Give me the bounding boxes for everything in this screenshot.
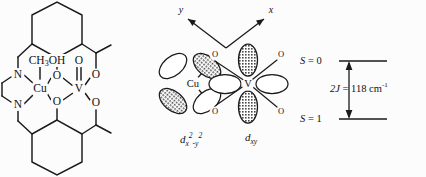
bond-upperring-to-ch [82,44,96,53]
energy-gap-label: 2J = 118 cm-1 [330,81,388,94]
orbital-caption-dx2y2: dx2-y2 [180,131,202,148]
cu-lobe-lower-left [155,83,192,118]
bond-ch-to-methyl-bottom [96,125,111,133]
v-lobe-bottom [239,91,258,123]
energy-label-triplet: S = 1 [300,113,322,124]
atom-label-nitrogen-bottom: N [14,98,23,110]
caption-sub-y: -y [193,139,199,148]
v-lobe-left [209,75,241,94]
orbital-label-oxygen-terminal-top: O [278,49,284,59]
bond-n-top-to-ch2a [2,77,11,83]
bond-ch-to-methyl-top [96,45,111,53]
axis-arrows: y x [178,4,274,48]
bond-lowerring-to-ch2 [18,121,32,134]
atom-label-oxygen-vanadyl: O [75,54,83,66]
gap-symbol: 2J [330,83,340,94]
axis-label-x: x [268,4,274,15]
axis-label-y: y [178,4,184,15]
orbital-panel: y x [155,0,297,177]
orbital-label-oxygen-bridge-bottom: O [212,106,218,116]
bond-lowerring-to-ch-lower [82,125,96,134]
v-lobe-right [256,75,288,94]
orbital-label-oxygen-bridge-top: O [212,49,218,59]
singlet-symbol: S [300,55,305,66]
cu-lobe-upper-left [155,48,192,83]
energy-label-singlet: S = 0 [300,55,322,66]
orbital-caption-dxy: dxy [245,131,257,146]
lower-cyclohexane-ring [32,120,82,175]
structure-svg: Cu V N N O O O O O CH3OH [0,0,158,177]
atom-label-oxygen-bridge-top: O [53,69,61,81]
gap-exponent: -1 [382,81,388,89]
gap-value: = 118 cm [343,83,382,94]
bond-obridge-bottom-to-v [63,93,73,100]
bond-obridge-top-to-v [63,78,73,86]
bond-v-to-o-topright [85,78,90,85]
chemistry-figure: Cu V N N O O O O O CH3OH [0,0,426,177]
orbital-label-oxygen-terminal-bottom: O [278,106,284,116]
bond-ch2b-to-n-bottom [2,96,11,102]
energy-gap-arrowhead-down [346,110,353,119]
orbital-label-vanadium: V [244,78,252,89]
triplet-value: = 1 [308,113,322,124]
methanol-prefix: CH [29,54,45,66]
methanol-suffix: OH [49,54,66,66]
energy-panel: S = 0 S = 1 2J = 118 cm-1 [295,0,426,177]
orbital-svg: y x [155,0,297,177]
atom-label-copper: Cu [33,82,47,94]
caption-sup-2b: 2 [198,131,202,140]
v-lobe-top [239,44,258,76]
bond-v-to-o-bottomright [85,93,90,100]
singlet-value: = 0 [308,55,322,66]
energy-gap-arrowhead-up [346,61,353,70]
bond-n-bottom-to-cu [24,94,34,104]
caption-sub-xy: xy [251,137,258,146]
orbital-label-copper: Cu [187,78,200,89]
molecular-structure-panel: Cu V N N O O O O O CH3OH [0,0,158,177]
atom-label-nitrogen-top: N [14,68,23,80]
atom-label-oxygen-top-right: O [92,68,100,80]
caption-sub-x: x [186,139,189,148]
upper-cyclohexane-ring [32,2,82,58]
atom-label-oxygen-bottom-right: O [92,96,100,108]
atom-label-vanadium: V [75,82,84,94]
atom-label-oxygen-bridge-bottom: O [53,95,61,107]
triplet-symbol: S [300,113,305,124]
